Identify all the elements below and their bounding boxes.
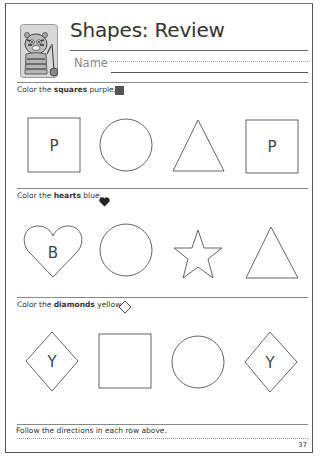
triangle-shape[interactable]: [246, 227, 298, 278]
square-shape[interactable]: [99, 334, 151, 388]
page-number: 37: [298, 441, 307, 449]
circle-shape[interactable]: [172, 336, 224, 388]
circle-shape[interactable]: [100, 224, 152, 276]
shape-letter: P: [49, 137, 58, 155]
shape-letter: Y: [46, 353, 57, 371]
footer-directions: Follow the directions in each row above.: [16, 426, 167, 435]
footer-divider: [17, 424, 308, 425]
shape-letter: Y: [264, 354, 275, 372]
footer-bottom-line: [17, 438, 308, 439]
star-shape[interactable]: [174, 230, 222, 278]
shape-letter: B: [48, 244, 58, 262]
shape-letter: P: [267, 138, 276, 156]
circle-shape[interactable]: [100, 119, 152, 171]
triangle-shape[interactable]: [173, 120, 224, 171]
